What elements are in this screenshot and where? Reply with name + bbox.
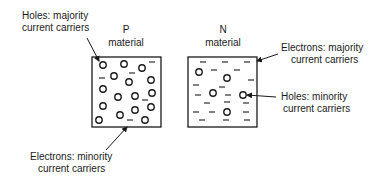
electrons-majority-label-1: Electrons: majority bbox=[281, 42, 363, 53]
n-subtitle: material bbox=[205, 37, 241, 48]
hole-icon bbox=[126, 79, 132, 85]
holes-minority-label-1: Holes: minority bbox=[281, 91, 347, 102]
p-title: P bbox=[123, 24, 130, 35]
n-title: N bbox=[219, 24, 226, 35]
hole-icon bbox=[148, 104, 154, 110]
hole-icon bbox=[132, 107, 138, 113]
electrons-minority-label-1: Electrons: minority bbox=[30, 151, 112, 162]
holes-majority-label-2: current carriers bbox=[22, 22, 89, 33]
p-subtitle: material bbox=[108, 37, 144, 48]
arrow-icon bbox=[247, 95, 276, 97]
holes-majority-label-1: Holes: majority bbox=[22, 10, 88, 21]
hole-icon bbox=[117, 112, 123, 118]
hole-icon bbox=[111, 73, 117, 79]
pn-carriers-diagram: P material N material Holes: majority cu… bbox=[0, 0, 388, 186]
hole-icon bbox=[142, 117, 148, 123]
annotation-electrons-minority: Electrons: minority current carriers bbox=[30, 127, 127, 174]
hole-icon bbox=[210, 90, 216, 96]
hole-icon bbox=[224, 75, 230, 81]
hole-icon bbox=[100, 62, 106, 68]
annotation-holes-majority: Holes: majority current carriers bbox=[22, 10, 99, 61]
hole-icon bbox=[96, 117, 102, 123]
arrow-icon bbox=[257, 54, 278, 61]
p-holes-group bbox=[96, 61, 155, 123]
p-electrons-group bbox=[99, 62, 155, 120]
p-material-block: P material bbox=[92, 24, 161, 127]
electrons-majority-label-2: current carriers bbox=[291, 54, 358, 65]
holes-minority-label-2: current carriers bbox=[283, 103, 350, 114]
n-holes-group bbox=[196, 69, 246, 115]
hole-icon bbox=[132, 93, 138, 99]
hole-icon bbox=[148, 77, 154, 83]
arrow-icon bbox=[106, 127, 127, 150]
hole-icon bbox=[240, 92, 246, 98]
hole-icon bbox=[149, 90, 155, 96]
annotation-holes-minority: Holes: minority current carriers bbox=[247, 91, 350, 114]
hole-icon bbox=[121, 61, 127, 67]
hole-icon bbox=[100, 103, 106, 109]
n-material-box bbox=[188, 57, 257, 127]
hole-icon bbox=[139, 65, 145, 71]
hole-icon bbox=[115, 94, 121, 100]
hole-icon bbox=[196, 69, 202, 75]
hole-icon bbox=[100, 86, 106, 92]
n-material-block: N material bbox=[188, 24, 257, 127]
electrons-minority-label-2: current carriers bbox=[38, 163, 105, 174]
hole-icon bbox=[224, 109, 230, 115]
annotation-electrons-majority: Electrons: majority current carriers bbox=[257, 42, 363, 65]
